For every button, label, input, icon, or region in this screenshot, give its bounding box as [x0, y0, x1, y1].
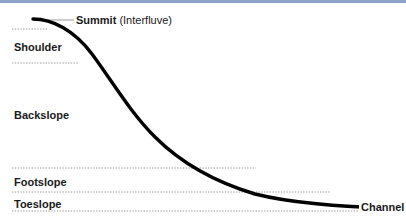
label-summit-text: Summit	[76, 14, 116, 26]
label-footslope: Footslope	[12, 176, 70, 188]
label-channel: Channel	[359, 201, 406, 213]
label-summit: Summit (Interfluve)	[74, 14, 174, 26]
label-toeslope: Toeslope	[12, 198, 64, 210]
hillslope-profile-figure: Summit (Interfluve) Shoulder Backslope F…	[0, 0, 406, 224]
label-summit-qualifier: (Interfluve)	[116, 14, 172, 26]
label-shoulder: Shoulder	[12, 41, 65, 53]
label-backslope: Backslope	[12, 109, 72, 121]
hillslope-curve	[33, 19, 394, 208]
